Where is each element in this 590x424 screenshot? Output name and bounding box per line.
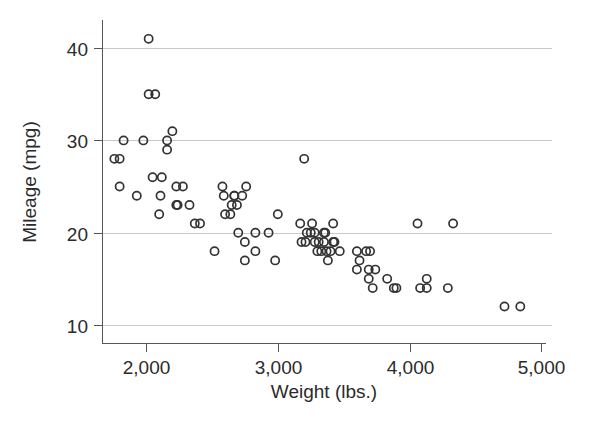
data-point <box>353 266 361 274</box>
data-point <box>226 210 234 218</box>
data-point <box>234 229 242 237</box>
data-point <box>145 35 153 43</box>
data-point <box>251 247 259 255</box>
data-point <box>210 247 218 255</box>
data-point <box>156 192 164 200</box>
data-point <box>413 219 421 227</box>
data-point <box>241 238 249 246</box>
data-point <box>444 284 452 292</box>
data-point <box>158 173 166 181</box>
data-point <box>296 219 304 227</box>
x-tick-label-5000: 5,000 <box>518 357 566 378</box>
data-point <box>218 182 226 190</box>
data-point <box>251 229 259 237</box>
data-point <box>116 182 124 190</box>
x-axis-title: Weight (lbs.) <box>271 381 377 402</box>
x-tick-label-4000: 4,000 <box>387 357 435 378</box>
data-point <box>116 155 124 163</box>
data-point <box>353 247 361 255</box>
data-point <box>264 229 272 237</box>
data-point <box>369 284 377 292</box>
x-tick-labels: 2,0003,0004,0005,000 <box>123 357 566 378</box>
y-tick-labels: 10203040 <box>67 39 88 337</box>
data-point <box>274 210 282 218</box>
data-point <box>423 275 431 283</box>
data-point <box>220 192 228 200</box>
y-axis-ticks <box>94 49 103 326</box>
data-point <box>238 192 246 200</box>
data-point <box>185 201 193 209</box>
data-point <box>242 182 250 190</box>
data-point <box>163 146 171 154</box>
data-point <box>355 256 363 264</box>
data-point <box>383 275 391 283</box>
data-point <box>500 302 508 310</box>
data-point <box>133 192 141 200</box>
plot-axes <box>103 20 547 344</box>
y-axis-title: Mileage (mpg) <box>19 121 40 242</box>
gridlines <box>103 49 553 326</box>
data-point <box>320 238 328 246</box>
y-tick-label-10: 10 <box>67 316 88 337</box>
data-point <box>449 219 457 227</box>
data-point <box>324 256 332 264</box>
x-tick-label-3000: 3,000 <box>255 357 303 378</box>
data-point <box>148 173 156 181</box>
y-tick-label-30: 30 <box>67 131 88 152</box>
data-point <box>300 155 308 163</box>
y-tick-label-40: 40 <box>67 39 88 60</box>
data-point <box>155 210 163 218</box>
data-point <box>329 219 337 227</box>
plot-canvas: 10203040 2,0003,0004,0005,000 Weight (lb… <box>0 0 590 424</box>
x-axis-ticks <box>147 344 542 353</box>
scatter-plot-figure: 10203040 2,0003,0004,0005,000 Weight (lb… <box>0 0 590 424</box>
x-tick-label-2000: 2,000 <box>123 357 171 378</box>
y-tick-label-20: 20 <box>67 224 88 245</box>
data-point <box>168 127 176 135</box>
data-point <box>308 219 316 227</box>
data-points <box>110 35 524 311</box>
data-point <box>271 256 279 264</box>
data-point <box>516 302 524 310</box>
data-point <box>241 256 249 264</box>
data-point <box>233 201 241 209</box>
data-point <box>230 192 238 200</box>
data-point <box>365 275 373 283</box>
data-point <box>196 219 204 227</box>
data-point <box>336 247 344 255</box>
